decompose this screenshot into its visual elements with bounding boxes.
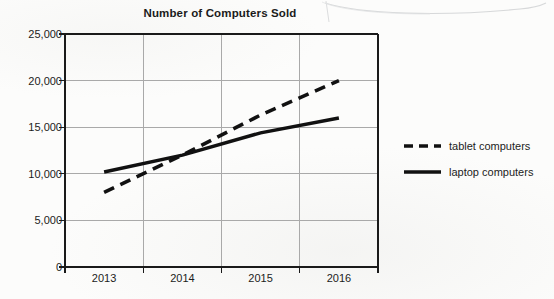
chart-legend: tablet computers laptop computers [0, 0, 554, 299]
chart-figure: Number of Computers Sold [0, 0, 554, 299]
legend-label-tablet-computers: tablet computers [449, 140, 530, 152]
legend-label-laptop-computers: laptop computers [449, 166, 533, 178]
